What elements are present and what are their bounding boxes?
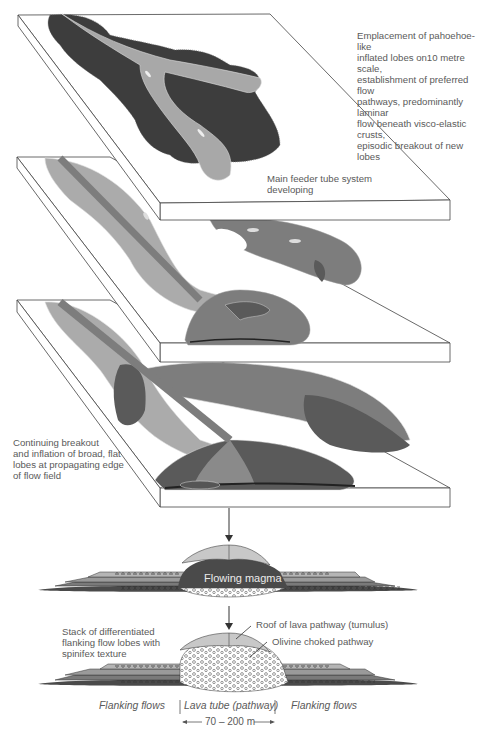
olivine-label: Olivine choked pathway <box>272 636 373 647</box>
olivine-base-1 <box>180 588 285 597</box>
scale-label: 70 – 200 m <box>205 716 255 727</box>
flowing-magma-label: Flowing magma <box>204 572 282 584</box>
stage3-caption: Continuing breakout and inflation of bro… <box>13 437 133 481</box>
stage1-slab-front <box>160 200 450 220</box>
flanking-flows-left: Flanking flows <box>99 700 165 711</box>
stage3-slab-front <box>160 488 450 507</box>
stage1-caption: Emplacement of pahoehoe-like inflated lo… <box>357 30 479 162</box>
stage2-slab-front <box>160 343 450 362</box>
flanking-flows-right: Flanking flows <box>291 700 357 711</box>
roof-label: Roof of lava pathway (tumulus) <box>256 619 388 630</box>
lava-tube-label: Lava tube (pathway) <box>184 700 278 711</box>
stage2-caption: Main feeder tube system developing <box>267 173 397 195</box>
cross-section-1 <box>38 545 418 597</box>
stack-label: Stack of differentiated flanking flow lo… <box>62 626 182 659</box>
